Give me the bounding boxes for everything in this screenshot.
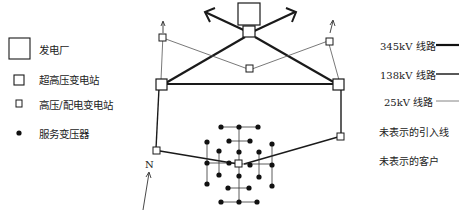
hv-substation-center (235, 160, 242, 167)
legend-power-plant-icon (9, 38, 30, 59)
legend-ehv-label: 超高压变电站 (39, 72, 99, 87)
hv-substation-left-top (159, 34, 166, 41)
legend-service-transformer-icon (16, 130, 21, 135)
legend-unshown-feeders-label: 未表示的引入线 (379, 124, 449, 139)
legend-power-plant-label: 发电厂 (39, 42, 69, 57)
legend-345-label: 345kV 线路 (380, 38, 436, 53)
hv-substation-right-bottom (337, 133, 344, 140)
legend-unshown-customers-label: 未表示的客户 (379, 153, 439, 168)
ehv-substation-top (243, 26, 255, 37)
legend-service-transformer-label: 服务变压器 (39, 126, 89, 141)
hv-substation-left-bottom (153, 147, 160, 154)
north-label: N (145, 159, 154, 170)
legend-ehv-icon (14, 75, 24, 85)
hv-substation-mid (246, 65, 253, 72)
legend-hv-icon (16, 100, 22, 107)
hv-substation-right-top (326, 38, 333, 45)
legend-25-label: 25kV 线路 (384, 94, 433, 109)
138kv-lines (156, 88, 341, 164)
25kv-lines (161, 34, 339, 80)
ehv-substation-right (333, 79, 344, 90)
power-plant (238, 3, 260, 25)
legend-138-label: 138kV 线路 (380, 67, 436, 82)
ehv-substation-left (156, 79, 167, 90)
legend-hv-label: 高压/配电变电站 (39, 97, 113, 112)
